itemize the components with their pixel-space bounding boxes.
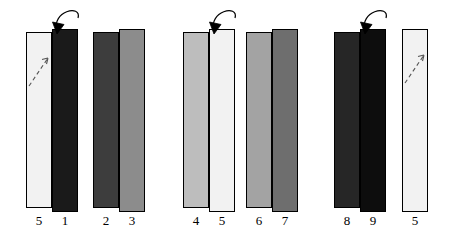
bar-group-2-item-0[interactable] (183, 32, 209, 208)
transfer-arrow-path-2 (213, 11, 235, 31)
bar-label-group-1-item-0: 5 (26, 214, 52, 228)
bar-label-group-1-item-3: 3 (119, 214, 145, 228)
bar-label-group-2-item-3: 7 (272, 214, 298, 228)
bar-label-group-2-item-1: 5 (209, 214, 235, 228)
bar-group-2-item-1[interactable] (209, 29, 235, 212)
bar-group-1-item-2[interactable] (93, 32, 119, 208)
bar-group-3-item-0[interactable] (334, 32, 360, 208)
bar-label-group-3-item-2: 5 (402, 214, 428, 228)
bar-label-group-2-item-0: 4 (183, 214, 209, 228)
bar-group-1-item-1[interactable] (52, 29, 78, 212)
bar-group-2-item-3[interactable] (272, 29, 298, 212)
bar-label-group-1-item-1: 1 (52, 214, 78, 228)
bar-label-group-2-item-2: 6 (246, 214, 272, 228)
bar-label-group-3-item-0: 8 (334, 214, 360, 228)
transfer-arrow-path-3 (364, 11, 386, 31)
bar-group-3-item-1[interactable] (360, 29, 386, 212)
bar-comparison-diagram: 5 1 2 3 4 5 6 7 8 9 5 (0, 0, 454, 245)
bar-group-2-item-2[interactable] (246, 32, 272, 208)
bar-label-group-1-item-2: 2 (93, 214, 119, 228)
transfer-arrow-path-1 (56, 11, 78, 31)
bar-group-1-item-3[interactable] (119, 29, 145, 212)
bar-group-1-item-0[interactable] (26, 32, 52, 208)
bar-label-group-3-item-1: 9 (360, 214, 386, 228)
bar-group-3-item-2[interactable] (402, 29, 428, 212)
